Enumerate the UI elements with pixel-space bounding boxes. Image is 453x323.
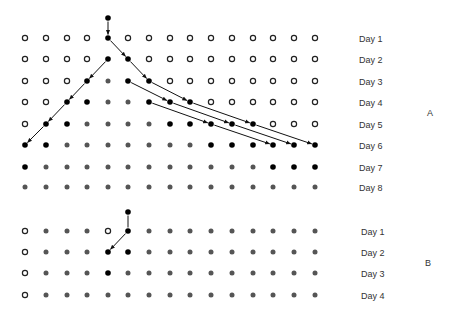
black-dot: [250, 121, 256, 127]
gray-dot: [85, 293, 90, 298]
gray-dot: [313, 250, 318, 255]
gray-dot: [271, 229, 276, 234]
panel-b: Day 1Day 2Day 3Day 4 B: [22, 209, 431, 300]
arrow-line: [131, 83, 167, 101]
open-circle: [208, 35, 213, 40]
gray-dot: [106, 143, 111, 148]
gray-dot: [106, 293, 111, 298]
gray-dot: [147, 293, 152, 298]
black-dot: [22, 164, 28, 170]
black-dot: [312, 142, 318, 148]
open-circle: [22, 270, 27, 275]
gray-dot: [65, 143, 70, 148]
black-dot: [125, 78, 131, 84]
gray-dot: [251, 165, 256, 170]
arrow-line: [110, 41, 125, 57]
open-circle: [312, 99, 317, 104]
open-circle: [187, 78, 192, 83]
start-node-dot: [105, 15, 111, 21]
gray-dot: [85, 185, 90, 190]
open-circle: [22, 228, 27, 233]
gray-dot: [44, 229, 49, 234]
gray-dot: [44, 271, 49, 276]
gray-dot: [85, 165, 90, 170]
gray-dot: [147, 122, 152, 127]
gray-dot: [209, 165, 214, 170]
day-label: Day 2: [361, 248, 385, 258]
panel-a-label: A: [427, 108, 433, 118]
gray-dot: [209, 185, 214, 190]
black-dot: [43, 121, 49, 127]
gray-dot: [126, 165, 131, 170]
open-circle: [312, 56, 317, 61]
gray-dot: [188, 165, 193, 170]
gray-dot: [313, 229, 318, 234]
black-dot: [84, 99, 90, 105]
gray-dot: [147, 250, 152, 255]
arrow-line: [235, 125, 290, 144]
start-node-dot: [125, 209, 131, 215]
day-label: Day 8: [359, 183, 383, 193]
open-circle: [125, 35, 130, 40]
gray-dot: [313, 185, 318, 190]
gray-dot: [65, 165, 70, 170]
panel-b-label: B: [425, 258, 431, 268]
gray-dot: [230, 271, 235, 276]
gray-dot: [271, 250, 276, 255]
open-circle: [291, 121, 296, 126]
gray-dot: [271, 271, 276, 276]
gray-dot: [271, 185, 276, 190]
gray-dot: [126, 185, 131, 190]
day-label: Day 7: [359, 163, 383, 173]
black-dot: [270, 142, 276, 148]
gray-dot: [271, 293, 276, 298]
gray-dot: [188, 271, 193, 276]
open-circle: [229, 35, 234, 40]
panel-b-arrows: [110, 216, 128, 250]
open-circle: [208, 99, 213, 104]
gray-dot: [65, 229, 70, 234]
gray-dot: [85, 271, 90, 276]
gray-dot: [126, 271, 131, 276]
open-circle: [229, 56, 234, 61]
gray-dot: [44, 250, 49, 255]
gray-dot: [292, 293, 297, 298]
gray-dot: [292, 271, 297, 276]
gray-dot: [85, 122, 90, 127]
gray-dot: [209, 229, 214, 234]
gray-dot: [209, 293, 214, 298]
panel-b-dots: [22, 209, 317, 297]
gray-dot: [209, 250, 214, 255]
gray-dot: [44, 293, 49, 298]
black-dot: [208, 142, 214, 148]
open-circle: [22, 249, 27, 254]
open-circle: [84, 35, 89, 40]
panel-a-day-labels: Day 1Day 2Day 3Day 4Day 5Day 6Day 7Day 8: [359, 34, 383, 193]
panel-b-day-labels: Day 1Day 2Day 3Day 4: [361, 227, 385, 301]
open-circle: [270, 35, 275, 40]
day-label: Day 4: [359, 98, 383, 108]
gray-dot: [251, 250, 256, 255]
open-circle: [229, 78, 234, 83]
open-circle: [187, 35, 192, 40]
black-dot: [146, 99, 152, 105]
day-label: Day 2: [359, 55, 383, 65]
gray-dot: [126, 293, 131, 298]
gray-dot: [209, 271, 214, 276]
black-dot: [105, 35, 111, 41]
arrow-line: [214, 125, 269, 144]
gray-dot: [106, 165, 111, 170]
black-dot: [43, 142, 49, 148]
gray-dot: [251, 293, 256, 298]
open-circle: [167, 35, 172, 40]
black-dot: [125, 228, 131, 234]
open-circle: [146, 35, 151, 40]
black-dot: [291, 164, 297, 170]
black-dot: [64, 121, 70, 127]
gray-dot: [65, 250, 70, 255]
gray-dot: [85, 229, 90, 234]
arrow-line: [27, 126, 43, 142]
open-circle: [312, 35, 317, 40]
black-dot: [64, 99, 70, 105]
open-circle: [22, 292, 27, 297]
